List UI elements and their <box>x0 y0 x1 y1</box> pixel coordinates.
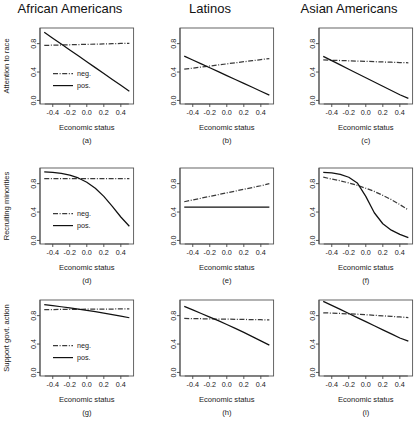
x-axis-title: Economic status <box>199 263 255 272</box>
y-axis: 0.00.40.8 <box>169 300 179 377</box>
column-title-african-americans: African Americans <box>0 1 140 16</box>
y-tick-label: 0.8 <box>308 39 317 49</box>
y-axis: 0.00.40.8 <box>29 168 39 245</box>
series-line-neg <box>323 313 408 318</box>
x-axis-title: Economic status <box>59 123 115 132</box>
panel-plot-b: 0.00.40.8-0.4-0.20.00.20.4Economic statu… <box>140 18 280 160</box>
x-tick-label: 0.2 <box>99 380 109 389</box>
x-tick-label: 0.4 <box>116 248 126 257</box>
x-tick-label: -0.4 <box>187 248 199 257</box>
y-tick-label: 0.4 <box>308 339 317 349</box>
x-tick-label: -0.4 <box>47 108 59 117</box>
panel-label: (b) <box>222 136 232 145</box>
y-tick-label: 0.8 <box>29 311 38 321</box>
x-axis-title: Economic status <box>338 395 394 404</box>
x-tick-label: 0.2 <box>378 380 388 389</box>
column-title-latinos: Latinos <box>140 1 280 16</box>
series-line-pos <box>323 56 408 98</box>
x-tick-label: 0.0 <box>82 380 92 389</box>
plot-frame <box>180 28 274 104</box>
series-line-pos <box>44 305 129 318</box>
y-tick-label: 0.0 <box>29 235 38 245</box>
x-axis: -0.4-0.20.00.20.4 <box>45 244 129 257</box>
y-tick-label: 0.8 <box>29 179 38 189</box>
series-line-pos <box>184 56 269 95</box>
legend-label-pos: pos. <box>77 353 91 362</box>
y-axis-title: Support govt. action <box>2 304 11 371</box>
x-tick-label: -0.4 <box>326 108 338 117</box>
legend-label-neg: neg. <box>77 341 91 350</box>
y-axis: 0.00.40.8 <box>29 28 39 105</box>
x-tick-label: 0.4 <box>256 248 266 257</box>
y-tick-label: 0.8 <box>169 39 178 49</box>
x-axis-title: Economic status <box>338 263 394 272</box>
x-tick-label: 0.4 <box>116 108 126 117</box>
x-tick-label: -0.4 <box>187 108 199 117</box>
x-tick-label: 0.0 <box>222 248 232 257</box>
y-tick-label: 0.4 <box>169 67 178 77</box>
panel-plot-f: 0.00.40.8-0.4-0.20.00.20.4Economic statu… <box>279 158 419 300</box>
series-line-neg <box>184 59 269 70</box>
x-axis: -0.4-0.20.00.20.4 <box>45 376 129 389</box>
x-tick-label: -0.2 <box>343 248 355 257</box>
x-axis: -0.4-0.20.00.20.4 <box>185 104 269 117</box>
y-tick-label: 0.0 <box>29 95 38 105</box>
plot-frame <box>319 28 413 104</box>
plot-frame <box>180 168 274 244</box>
y-axis: 0.00.40.8 <box>308 168 318 245</box>
y-tick-label: 0.8 <box>308 311 317 321</box>
x-axis: -0.4-0.20.00.20.4 <box>185 376 269 389</box>
x-axis: -0.4-0.20.00.20.4 <box>45 104 129 117</box>
multi-panel-figure: African Americans Latinos Asian American… <box>0 0 419 425</box>
panel-g: 0.00.40.8-0.4-0.20.00.20.4Support govt. … <box>0 290 140 425</box>
x-tick-label: 0.2 <box>239 108 249 117</box>
x-tick-label: -0.2 <box>343 380 355 389</box>
panel-i: 0.00.40.8-0.4-0.20.00.20.4Economic statu… <box>279 290 419 425</box>
legend-label-neg: neg. <box>77 209 91 218</box>
panel-plot-g: 0.00.40.8-0.4-0.20.00.20.4Support govt. … <box>0 290 140 425</box>
y-tick-label: 0.0 <box>29 367 38 377</box>
series-line-pos <box>184 306 269 345</box>
x-tick-label: 0.4 <box>256 380 266 389</box>
x-tick-label: 0.4 <box>395 248 405 257</box>
column-titles: African Americans Latinos Asian American… <box>0 0 419 20</box>
panel-d: 0.00.40.8-0.4-0.20.00.20.4Recruiting min… <box>0 158 140 300</box>
x-axis: -0.4-0.20.00.20.4 <box>324 244 408 257</box>
panel-label: (e) <box>222 276 232 285</box>
y-axis: 0.00.40.8 <box>29 300 39 377</box>
y-tick-label: 0.4 <box>29 339 38 349</box>
x-tick-label: 0.2 <box>99 108 109 117</box>
series-line-neg <box>323 177 408 210</box>
y-tick-label: 0.8 <box>169 311 178 321</box>
x-axis-title: Economic status <box>59 395 115 404</box>
legend-label-neg: neg. <box>77 69 91 78</box>
y-axis: 0.00.40.8 <box>169 168 179 245</box>
y-tick-label: 0.0 <box>169 95 178 105</box>
y-tick-label: 0.0 <box>169 235 178 245</box>
y-tick-label: 0.0 <box>169 367 178 377</box>
plot-frame <box>40 168 134 244</box>
panel-plot-c: 0.00.40.8-0.4-0.20.00.20.4Economic statu… <box>279 18 419 160</box>
y-tick-label: 0.0 <box>308 367 317 377</box>
panel-plot-d: 0.00.40.8-0.4-0.20.00.20.4Recruiting min… <box>0 158 140 300</box>
plot-frame <box>40 300 134 376</box>
panel-a: 0.00.40.8-0.4-0.20.00.20.4Attention to r… <box>0 18 140 160</box>
x-tick-label: 0.0 <box>82 248 92 257</box>
y-tick-label: 0.4 <box>169 339 178 349</box>
panel-label: (f) <box>362 276 370 285</box>
panel-plot-e: 0.00.40.8-0.4-0.20.00.20.4Economic statu… <box>140 158 280 300</box>
x-tick-label: -0.2 <box>204 380 216 389</box>
y-tick-label: 0.4 <box>169 207 178 217</box>
x-tick-label: -0.2 <box>64 248 76 257</box>
x-tick-label: 0.4 <box>395 380 405 389</box>
series-line-neg <box>184 318 269 319</box>
plot-frame <box>180 300 274 376</box>
x-tick-label: -0.2 <box>64 108 76 117</box>
legend: neg.pos. <box>53 341 91 362</box>
x-tick-label: -0.2 <box>64 380 76 389</box>
x-axis: -0.4-0.20.00.20.4 <box>185 244 269 257</box>
x-tick-label: -0.4 <box>326 248 338 257</box>
x-tick-label: 0.2 <box>239 380 249 389</box>
x-tick-label: 0.0 <box>361 380 371 389</box>
x-tick-label: -0.4 <box>47 380 59 389</box>
